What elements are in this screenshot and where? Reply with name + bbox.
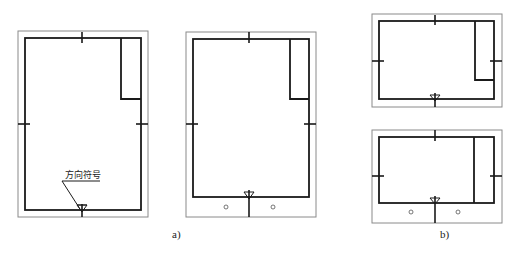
label-a: a) bbox=[172, 228, 181, 241]
binding-hole bbox=[224, 205, 228, 209]
trim-border bbox=[186, 32, 316, 217]
drawing-frame bbox=[193, 39, 309, 197]
title-block bbox=[290, 39, 309, 99]
drawing-frame bbox=[25, 38, 141, 210]
title-block bbox=[475, 21, 494, 80]
title-block bbox=[121, 38, 141, 99]
binding-hole bbox=[271, 205, 275, 209]
binding-hole bbox=[456, 210, 460, 214]
drawing-frame bbox=[379, 21, 494, 99]
direction-symbol-label: 方向符号 bbox=[65, 169, 101, 180]
sheet-a1-portrait: 方向符号 bbox=[18, 31, 148, 217]
binding-hole bbox=[409, 210, 413, 214]
drawing-frame bbox=[379, 137, 494, 203]
sheet-a2-portrait-binding bbox=[186, 32, 316, 217]
trim-border bbox=[372, 130, 502, 223]
trim-border bbox=[18, 31, 148, 217]
trim-border bbox=[372, 14, 502, 107]
sheet-b2-landscape-binding bbox=[372, 130, 502, 223]
drawing-sheet-formats-figure: 方向符号 a) b) bbox=[0, 0, 516, 253]
label-b: b) bbox=[440, 228, 450, 241]
sheet-b1-landscape bbox=[372, 14, 502, 107]
